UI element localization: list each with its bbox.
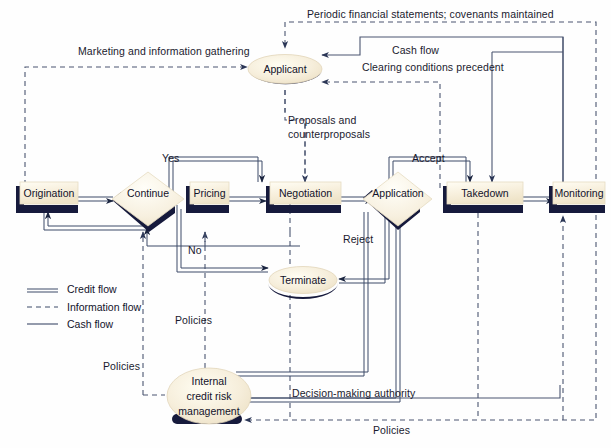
node-label-negotiation: Negotiation xyxy=(270,187,341,199)
edge-label-clearing-conditions: Clearing conditions precedent xyxy=(362,61,504,73)
legend-label-information-flow: Information flow xyxy=(67,301,141,313)
node-label-internal-line3: management xyxy=(167,405,251,417)
legend-swatches xyxy=(27,289,58,324)
node-label-takedown: Takedown xyxy=(447,187,523,199)
legend-label-credit-flow: Credit flow xyxy=(67,283,117,295)
edge-loop-back-continue-a xyxy=(147,228,300,246)
edge-label-policies-left: Policies xyxy=(103,360,140,372)
legend-label-cash-flow: Cash flow xyxy=(67,318,113,330)
edge-application-reject-a xyxy=(339,212,385,283)
edge-continue-no-a xyxy=(177,205,268,272)
node-label-applicant: Applicant xyxy=(249,63,321,75)
node-label-internal-line1: Internal xyxy=(167,375,251,387)
edge-continue-no-b xyxy=(181,209,268,268)
node-label-origination: Origination xyxy=(20,187,78,199)
node-label-internal-line2: credit risk xyxy=(167,390,251,402)
edge-label-decision-authority: Decision-making authority xyxy=(292,387,415,399)
edge-policies-bottom xyxy=(245,188,596,420)
edge-label-yes: Yes xyxy=(162,152,179,164)
diagram-canvas: Applicant Origination Continue Pricing N… xyxy=(0,0,611,448)
edge-internal-application-b xyxy=(236,214,400,402)
application-body xyxy=(363,172,432,226)
edge-label-no: No xyxy=(188,244,202,256)
edge-label-reject: Reject xyxy=(343,233,373,245)
node-label-continue: Continue xyxy=(115,187,181,199)
edge-label-proposals-1: Proposals and xyxy=(288,114,356,126)
node-label-pricing: Pricing xyxy=(190,187,229,199)
edge-label-cash-flow: Cash flow xyxy=(392,44,439,56)
node-application[interactable] xyxy=(363,172,432,230)
edge-label-proposals-2: counterproposals xyxy=(288,128,370,140)
node-label-application: Application xyxy=(364,187,432,199)
node-label-monitoring: Monitoring xyxy=(551,187,607,199)
edge-marketing-info xyxy=(25,67,247,185)
edge-label-accept: Accept xyxy=(412,152,445,164)
edge-label-marketing: Marketing and information gathering xyxy=(78,45,250,57)
edge-label-policies-mid: Policies xyxy=(175,314,212,326)
node-label-terminate: Terminate xyxy=(269,274,337,286)
edge-label-policies-bottom: Policies xyxy=(373,424,410,436)
edge-label-periodic-statements: Periodic financial statements; covenants… xyxy=(307,8,554,20)
